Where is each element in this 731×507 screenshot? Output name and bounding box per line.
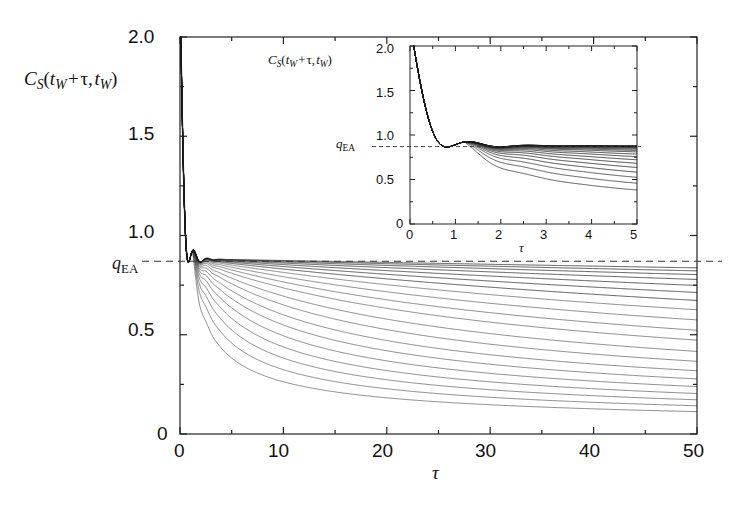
inset-xtick-2: 2 [495, 227, 502, 242]
inset-qea-label: qEA [336, 136, 355, 153]
inset-plot-frame [410, 46, 637, 224]
inset-xtick-5: 5 [630, 227, 637, 242]
main-ytick-1.5: 1.5 [128, 123, 154, 145]
main-qea-label: qEA [112, 253, 138, 277]
main-xtick-40: 40 [579, 440, 600, 462]
inset-xtick-3: 3 [540, 227, 547, 242]
inset-ytick-1.0: 1.0 [376, 128, 394, 143]
main-xtick-20: 20 [372, 440, 393, 462]
inset-ytick-0.5: 0.5 [376, 172, 394, 187]
main-xtick-10: 10 [268, 440, 289, 462]
main-xtick-0: 0 [174, 440, 185, 462]
main-ytick-0: 0 [157, 423, 168, 445]
inset-ytick-1.5: 1.5 [376, 85, 394, 100]
inset-y-axis-label: CS(tW + τ, tW) [268, 52, 332, 69]
main-x-axis-label: τ [432, 462, 439, 484]
inset-ytick-0: 0 [396, 216, 403, 231]
inset-xtick-4: 4 [585, 227, 592, 242]
main-ytick-0.5: 0.5 [128, 319, 154, 341]
inset-curve-family [414, 46, 637, 190]
main-ytick-2.0: 2.0 [128, 26, 154, 48]
inset-x-axis-label: τ [519, 240, 524, 256]
main-y-axis-label: CS(tW + τ, tW) [24, 68, 117, 93]
main-xtick-30: 30 [475, 440, 496, 462]
main-xtick-50: 50 [683, 440, 704, 462]
main-ytick-1.0: 1.0 [128, 221, 154, 243]
inset-xtick-1: 1 [450, 227, 457, 242]
inset-ytick-2.0: 2.0 [376, 41, 394, 56]
inset-xtick-0: 0 [406, 227, 413, 242]
